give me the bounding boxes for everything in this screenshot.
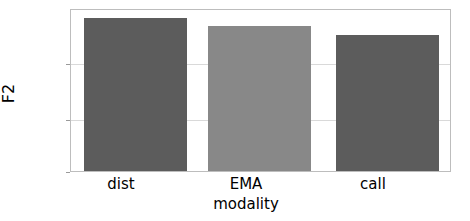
y-axis-label: F2 <box>0 64 18 124</box>
bar-ema[interactable] <box>208 26 311 171</box>
y-tick-mark-0.00 <box>66 172 70 173</box>
x-axis-label: modality <box>176 195 316 213</box>
bar-chart-figure: F2 0.04 0.02 0.00 dist EMA call modality <box>0 0 470 221</box>
bar-dist[interactable] <box>84 18 187 171</box>
x-tick-label-ema: EMA <box>176 177 316 193</box>
x-tick-label-call: call <box>303 177 443 193</box>
plot-area <box>70 9 451 172</box>
x-tick-label-dist: dist <box>51 177 191 193</box>
bar-call[interactable] <box>336 35 439 171</box>
